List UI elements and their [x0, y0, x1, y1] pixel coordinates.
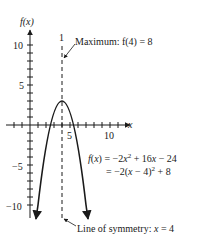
symmetry-label: Line of symmetry: x = 4: [77, 223, 174, 234]
tick-y-5: 5: [19, 80, 24, 91]
equation-line1: f(x) = −2x2 + 16x − 24: [88, 152, 177, 165]
y-axis-label: f(x): [20, 16, 35, 28]
vertex-tick-label: 1: [59, 32, 64, 43]
curve-right-arrow: [86, 205, 88, 219]
parabola-chart: 10 5 −5 −10 5 10 f(x) x 1 Maximum: f(4) …: [0, 0, 201, 247]
symmetry-pointer: [64, 219, 76, 226]
tick-x-10: 10: [104, 130, 114, 141]
maximum-label: Maximum: f(4) = 8: [75, 36, 153, 48]
tick-y-neg5: −5: [12, 161, 23, 172]
curve-left-arrow: [36, 205, 38, 219]
tick-y-neg10: −10: [6, 201, 22, 212]
tick-x-5: 5: [67, 130, 72, 141]
maximum-pointer: [64, 44, 75, 58]
tick-y-10: 10: [13, 40, 23, 51]
x-axis-label: x: [127, 119, 133, 130]
equation-line2: = −2(x − 4)2 + 8: [106, 165, 171, 178]
